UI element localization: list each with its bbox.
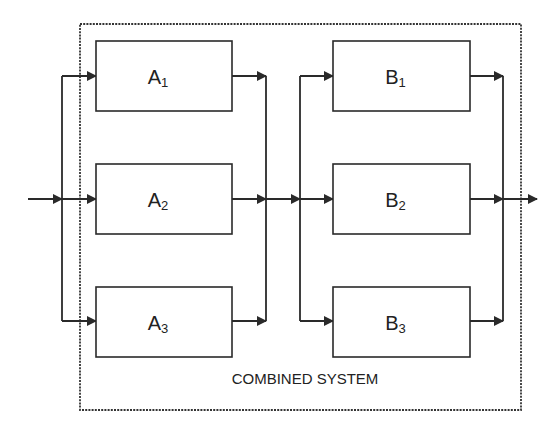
system-caption: COMBINED SYSTEM <box>232 370 379 387</box>
combined-system-diagram: A1A2A3 B1B2B3 COMBINED SYSTEM <box>0 0 555 430</box>
